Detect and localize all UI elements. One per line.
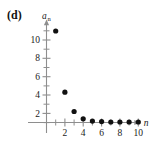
sequence-scatter-plot: 2 4 6 8 10 2 4 6 8 10 a n n	[0, 0, 157, 141]
x-tick-label: 8	[118, 128, 123, 138]
data-point	[62, 90, 67, 95]
data-point	[136, 119, 141, 124]
data-point	[108, 119, 113, 124]
chart-screenshot: (d)	[0, 0, 157, 141]
y-tick-label: 2	[35, 109, 40, 119]
data-point	[72, 109, 77, 114]
x-axis-title: n	[144, 118, 149, 128]
data-point	[53, 28, 58, 33]
data-point	[127, 119, 132, 124]
y-tick-label: 6	[35, 72, 40, 82]
x-tick-label: 6	[99, 128, 104, 138]
data-points	[53, 28, 141, 124]
data-point	[90, 119, 95, 124]
data-point	[117, 119, 122, 124]
x-axis-tick-labels: 2 4 6 8 10	[63, 128, 144, 138]
y-axis-title-base: a	[42, 11, 47, 21]
x-tick-label: 2	[63, 128, 68, 138]
y-axis-tick-labels: 2 4 6 8 10	[31, 35, 41, 118]
y-tick-label: 10	[31, 35, 41, 45]
data-point	[99, 119, 104, 124]
x-tick-label: 10	[134, 128, 144, 138]
plot-svg: 2 4 6 8 10 2 4 6 8 10 a n n	[0, 0, 157, 141]
y-axis-title: a n	[42, 11, 52, 22]
y-axis-title-subscript: n	[48, 15, 52, 22]
data-point	[81, 116, 86, 121]
x-tick-label: 4	[81, 128, 86, 138]
y-tick-label: 8	[35, 53, 40, 63]
y-tick-label: 4	[35, 90, 40, 100]
